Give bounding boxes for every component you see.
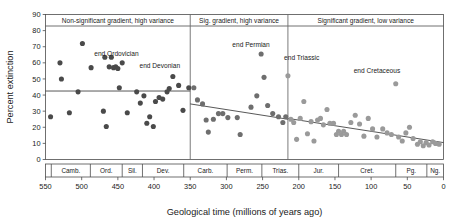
data-point[interactable]	[67, 110, 72, 115]
data-point[interactable]	[324, 107, 329, 112]
data-point[interactable]	[191, 85, 196, 90]
data-point[interactable]	[380, 126, 385, 131]
period-label-ord: Ord.	[100, 167, 113, 174]
x-axis-title: Geological time (millions of years ago)	[167, 207, 323, 217]
data-point[interactable]	[134, 89, 139, 94]
data-point[interactable]	[331, 121, 336, 126]
data-point[interactable]	[176, 83, 181, 88]
data-point[interactable]	[138, 101, 143, 106]
x-tick-label-100: 100	[365, 182, 377, 191]
data-point[interactable]	[259, 51, 264, 56]
data-point[interactable]	[344, 132, 349, 137]
data-point[interactable]	[385, 130, 390, 135]
data-point[interactable]	[151, 124, 156, 129]
data-point[interactable]	[141, 93, 146, 98]
y-tick-label-70: 70	[32, 42, 40, 51]
data-point[interactable]	[104, 124, 109, 129]
annotation-end-cretaceous: end Cretaceous	[354, 67, 401, 74]
y-tick-label-0: 0	[36, 155, 40, 164]
data-point[interactable]	[120, 60, 125, 65]
data-point[interactable]	[407, 125, 412, 130]
data-point[interactable]	[57, 60, 62, 65]
data-point[interactable]	[309, 119, 314, 124]
data-point[interactable]	[180, 108, 185, 113]
data-point[interactable]	[400, 138, 405, 143]
data-point[interactable]	[107, 64, 112, 69]
data-point[interactable]	[396, 134, 401, 139]
data-point[interactable]	[361, 134, 366, 139]
data-point[interactable]	[301, 99, 306, 104]
x-tick-label-550: 550	[39, 182, 51, 191]
extinction-scatter-chart: 0102030405060708090Percent extinctionCam…	[0, 0, 466, 224]
data-point[interactable]	[291, 120, 296, 125]
data-point[interactable]	[160, 97, 165, 102]
data-point[interactable]	[254, 93, 259, 98]
data-point[interactable]	[321, 122, 326, 127]
period-label-perm: Perm.	[236, 167, 253, 174]
data-point[interactable]	[270, 111, 275, 116]
data-point[interactable]	[389, 132, 394, 137]
data-point[interactable]	[285, 73, 290, 78]
data-point[interactable]	[261, 75, 266, 80]
data-point[interactable]	[366, 116, 371, 121]
data-point[interactable]	[170, 74, 175, 79]
data-point[interactable]	[153, 99, 158, 104]
x-tick-label-350: 350	[184, 182, 196, 191]
data-point[interactable]	[311, 138, 316, 143]
data-point[interactable]	[216, 111, 221, 116]
data-point[interactable]	[80, 41, 85, 46]
x-tick-label-450: 450	[112, 182, 124, 191]
period-label-trias: Trias.	[272, 167, 288, 174]
data-point[interactable]	[195, 97, 200, 102]
period-label-carb: Carb.	[198, 167, 214, 174]
data-point[interactable]	[280, 120, 285, 125]
data-point[interactable]	[374, 134, 379, 139]
x-tick-label-0: 0	[441, 182, 445, 191]
data-point[interactable]	[357, 122, 362, 127]
x-tick-label-50: 50	[403, 182, 411, 191]
data-point[interactable]	[206, 130, 211, 135]
data-point[interactable]	[125, 110, 130, 115]
data-point[interactable]	[276, 114, 281, 119]
data-point[interactable]	[248, 105, 253, 110]
period-label-sil: Sil.	[128, 167, 137, 174]
data-point[interactable]	[144, 121, 149, 126]
data-point[interactable]	[348, 120, 353, 125]
x-tick-label-500: 500	[76, 182, 88, 191]
data-point[interactable]	[59, 76, 64, 81]
data-point[interactable]	[211, 117, 216, 122]
data-point[interactable]	[76, 89, 81, 94]
period-label-ng: Ng.	[430, 167, 440, 175]
data-point[interactable]	[437, 142, 442, 147]
data-point[interactable]	[117, 85, 122, 90]
data-point[interactable]	[200, 101, 205, 106]
data-point[interactable]	[220, 111, 225, 116]
data-point[interactable]	[225, 115, 230, 120]
data-point[interactable]	[298, 116, 303, 121]
panel-header-panel-3: Significant gradient, low variance	[318, 17, 415, 25]
data-point[interactable]	[370, 126, 375, 131]
data-point[interactable]	[353, 113, 358, 118]
data-point[interactable]	[235, 115, 240, 120]
data-point[interactable]	[167, 86, 172, 91]
data-point[interactable]	[147, 114, 152, 119]
data-point[interactable]	[89, 65, 94, 70]
data-point[interactable]	[305, 131, 310, 136]
data-point[interactable]	[204, 117, 209, 122]
data-point[interactable]	[48, 114, 53, 119]
y-tick-label-50: 50	[32, 75, 40, 84]
data-point[interactable]	[393, 81, 398, 86]
period-label-dev: Dev.	[157, 167, 170, 174]
data-point[interactable]	[186, 85, 191, 90]
data-point[interactable]	[238, 132, 243, 137]
annotation-end-ordovician: end Ordovician	[94, 50, 139, 57]
data-point[interactable]	[101, 109, 106, 114]
data-point[interactable]	[403, 130, 408, 135]
data-point[interactable]	[318, 116, 323, 121]
y-axis-title: Percent extinction	[5, 50, 15, 123]
data-point[interactable]	[265, 103, 270, 108]
data-point[interactable]	[294, 137, 299, 142]
data-point[interactable]	[411, 136, 416, 141]
data-point[interactable]	[283, 114, 288, 119]
data-point[interactable]	[115, 66, 120, 71]
